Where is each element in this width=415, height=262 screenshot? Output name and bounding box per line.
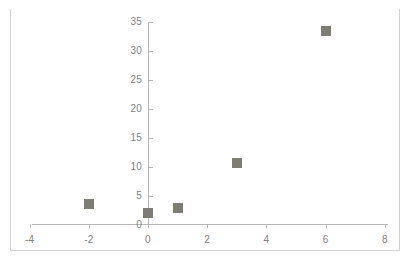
y-axis-tick-label: 20	[104, 103, 142, 115]
data-point-marker	[232, 158, 242, 168]
data-point-marker	[321, 26, 331, 36]
y-axis-tick-label: 15	[104, 132, 142, 144]
y-axis-tick	[149, 109, 153, 110]
x-axis-tick-label: -4	[10, 234, 50, 246]
x-axis-tick-label: 2	[187, 234, 227, 246]
y-axis-tick-label: 5	[104, 190, 142, 202]
x-axis-line	[32, 224, 388, 225]
scatter-chart: -4-202468 05101520253035	[0, 0, 415, 262]
y-axis-tick	[149, 80, 153, 81]
x-axis-tick	[207, 224, 208, 228]
y-axis-tick-label: 30	[104, 45, 142, 57]
x-axis-tick	[148, 224, 149, 228]
x-axis-tick-label: 4	[246, 234, 286, 246]
x-axis-tick	[30, 224, 31, 228]
data-point-marker	[143, 208, 153, 218]
y-axis-tick	[149, 22, 153, 23]
plot-frame	[10, 9, 400, 251]
x-axis-tick-label: -2	[69, 234, 109, 246]
y-axis-tick	[149, 138, 153, 139]
y-axis-tick-label: 35	[104, 16, 142, 28]
data-point-marker	[173, 203, 183, 213]
x-axis-tick-label: 0	[128, 234, 168, 246]
y-axis-tick	[149, 196, 153, 197]
y-axis-tick	[149, 167, 153, 168]
y-axis-tick-label: 10	[104, 161, 142, 173]
x-axis-tick	[326, 224, 327, 228]
y-axis-tick-label: 25	[104, 74, 142, 86]
x-axis-tick	[89, 224, 90, 228]
x-axis-tick-label: 8	[365, 234, 405, 246]
y-axis-tick-label: 0	[104, 219, 142, 231]
data-point-marker	[84, 199, 94, 209]
x-axis-tick	[266, 224, 267, 228]
x-axis-tick	[385, 224, 386, 228]
x-axis-tick-label: 6	[306, 234, 346, 246]
y-axis-tick	[149, 51, 153, 52]
